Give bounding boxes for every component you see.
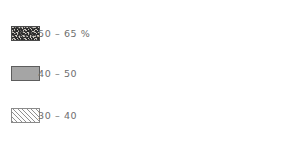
map-legend: 50 – 65 % 40 – 50 30 – 40 20 – 30 10 – 2… <box>0 0 285 142</box>
legend-label-50-65: 50 – 65 % <box>38 26 90 42</box>
legend-label-30-40: 30 – 40 <box>38 108 77 124</box>
legend-swatch-30-40 <box>11 108 40 123</box>
legend-swatch-50-65 <box>11 26 40 41</box>
legend-swatch-40-50 <box>11 66 40 81</box>
legend-label-40-50: 40 – 50 <box>38 66 77 82</box>
